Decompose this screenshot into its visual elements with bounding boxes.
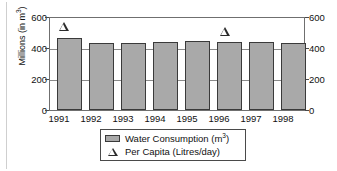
legend-item-water-consumption: Water Consumption (m3) — [105, 132, 241, 145]
y-axis-title-tail: ) — [17, 6, 27, 9]
y2-axis-tick-label-0: 0 — [309, 105, 335, 116]
bar-1991 — [57, 38, 82, 110]
chart-legend: Water Consumption (m3) Per Capita (Litre… — [100, 129, 246, 161]
legend-label-water-consumption-text: Water Consumption (m — [125, 134, 222, 145]
bar-1998 — [281, 43, 306, 111]
x-axis-tick-label-1993: 1993 — [106, 113, 140, 124]
y2-axis-tick-mark-600 — [305, 17, 309, 18]
legend-label-per-capita: Per Capita (Litres/day) — [125, 146, 220, 157]
legend-item-per-capita: Per Capita (Litres/day) — [105, 145, 241, 158]
chart-figure: Millions (in m3) 600 400 200 0 600 400 2… — [0, 0, 337, 171]
per-capita-marker-1996 — [220, 27, 230, 36]
bar-1994 — [153, 42, 178, 111]
x-axis-tick-label-1991: 1991 — [42, 113, 76, 124]
bar-1995 — [185, 41, 210, 110]
legend-label-water-consumption-tail: ) — [226, 134, 229, 145]
y2-axis-tick-label-400: 400 — [309, 43, 335, 54]
x-axis-tick-label-1997: 1997 — [234, 113, 268, 124]
legend-triangle-icon — [105, 148, 120, 156]
x-axis-tick-label-1992: 1992 — [74, 113, 108, 124]
plot-area — [49, 17, 305, 111]
bar-1997 — [249, 42, 274, 111]
x-axis-tick-label-1998: 1998 — [266, 113, 300, 124]
y2-axis-tick-label-600: 600 — [309, 12, 335, 23]
x-axis-tick-label-1995: 1995 — [170, 113, 204, 124]
bar-1996 — [217, 42, 242, 110]
legend-swatch-bar-icon — [105, 135, 120, 142]
bar-1992 — [89, 43, 114, 110]
y-axis-tick-label-600: 600 — [21, 12, 47, 23]
per-capita-marker-1991 — [59, 22, 69, 31]
bar-1993 — [121, 43, 146, 110]
y-axis-tick-label-200: 200 — [21, 74, 47, 85]
y-axis-tick-label-400: 400 — [21, 43, 47, 54]
bar-series — [50, 18, 304, 110]
x-axis-tick-label-1996: 1996 — [202, 113, 236, 124]
x-axis-tick-label-1994: 1994 — [138, 113, 172, 124]
y2-axis-tick-label-200: 200 — [309, 74, 335, 85]
y2-axis-tick-mark-0 — [305, 110, 309, 111]
legend-label-water-consumption: Water Consumption (m3) — [125, 132, 229, 144]
page-edge-rule — [6, 2, 7, 169]
